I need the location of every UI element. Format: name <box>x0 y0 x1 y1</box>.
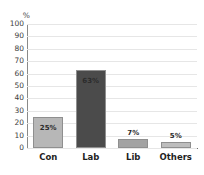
y-axis-tick-label: 100 <box>6 20 24 28</box>
gridline <box>27 148 197 149</box>
plot-area: 25%63%7%5% <box>27 24 197 148</box>
y-axis-tick-label: 90 <box>6 32 24 40</box>
y-axis-tick-label: 0 <box>6 144 24 152</box>
bar-value-label: 25% <box>33 124 63 132</box>
x-axis-label-lib: Lib <box>112 152 155 162</box>
y-axis-tick-label: 60 <box>6 70 24 78</box>
bar[interactable] <box>161 142 191 148</box>
bar[interactable] <box>118 139 148 148</box>
y-axis-tick-label: 10 <box>6 132 24 140</box>
y-axis-tick-label: 50 <box>6 82 24 90</box>
y-axis-tick-label: 80 <box>6 45 24 53</box>
x-axis-label-others: Others <box>155 152 198 162</box>
bar-value-label: 5% <box>161 132 191 140</box>
bar-column[interactable]: 25% <box>33 24 63 148</box>
y-axis-tick-label: 70 <box>6 57 24 65</box>
bar-value-label: 7% <box>118 129 148 137</box>
bar-value-label: 63% <box>76 77 106 85</box>
bar-chart: % 25%63%7%5% 1009080706050403020100 ConL… <box>0 0 204 175</box>
x-axis-label-con: Con <box>27 152 70 162</box>
y-axis-tick-label: 30 <box>6 107 24 115</box>
bar-column[interactable]: 7% <box>118 24 148 148</box>
bar-column[interactable]: 63% <box>76 24 106 148</box>
y-axis-tick-label: 20 <box>6 119 24 127</box>
y-axis-tick-label: 40 <box>6 94 24 102</box>
bar[interactable] <box>33 117 63 148</box>
bar-column[interactable]: 5% <box>161 24 191 148</box>
x-axis-label-lab: Lab <box>70 152 113 162</box>
